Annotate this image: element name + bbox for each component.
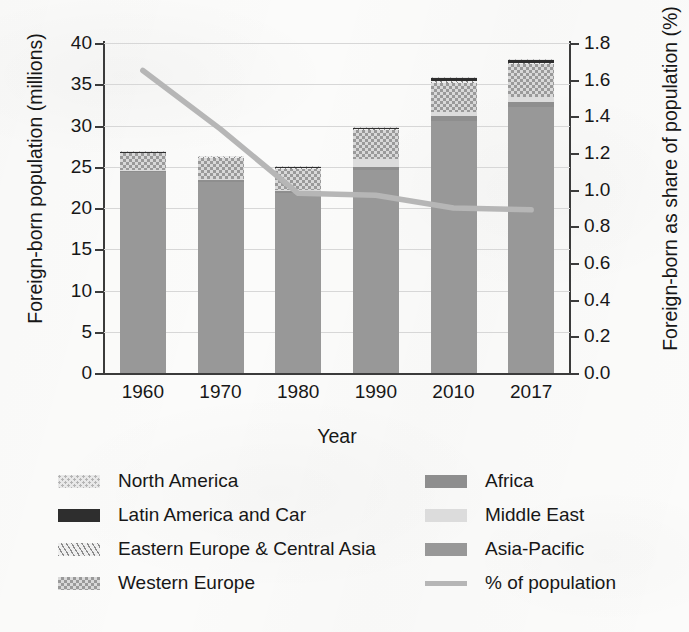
- right-tick-mark: [570, 43, 579, 45]
- left-tick-label: 15: [71, 239, 92, 258]
- checkerboard-swatch-icon: [58, 577, 100, 590]
- x-tick-label: 1970: [176, 381, 266, 403]
- legend-label-africa: Africa: [485, 470, 534, 492]
- right-axis-title: Foreign-born as share of population (%): [659, 0, 682, 394]
- left-tick-mark: [95, 208, 104, 210]
- right-tick-label: 1.4: [584, 106, 610, 125]
- left-tick-mark: [95, 332, 104, 334]
- legend-label-middle-east: Middle East: [485, 504, 584, 526]
- left-tick-label: 25: [71, 157, 92, 176]
- legend-item-western-europe: Western Europe: [58, 568, 388, 598]
- right-tick-mark: [570, 300, 579, 302]
- left-tick-mark: [95, 43, 104, 45]
- right-tick-label: 1.8: [584, 33, 610, 52]
- right-tick-mark: [570, 263, 579, 265]
- left-tick-mark: [95, 291, 104, 293]
- right-tick-label: 0.8: [584, 216, 610, 235]
- legend-item-north-america: North America: [58, 466, 388, 496]
- legend-item-africa: Africa: [425, 466, 689, 496]
- chart-figure: 4035302520151050 1.81.61.41.21.00.80.60.…: [0, 0, 689, 632]
- right-tick-mark: [570, 373, 579, 375]
- legend-label-latin-america: Latin America and Car: [118, 504, 306, 526]
- solid-medium-gray-swatch-icon: [425, 543, 467, 556]
- right-tick-mark: [570, 116, 579, 118]
- x-tick-label: 1960: [98, 381, 188, 403]
- legend-label-percent-of-population: % of population: [485, 572, 616, 594]
- legend-label-north-america: North America: [118, 470, 238, 492]
- legend-item-eastern-europe: Eastern Europe & Central Asia: [58, 534, 388, 564]
- legend-label-asia-pacific: Asia-Pacific: [485, 538, 584, 560]
- right-tick-label: 1.6: [584, 70, 610, 89]
- chart-legend: North America Latin America and Car East…: [30, 464, 670, 614]
- right-tick-mark: [570, 336, 579, 338]
- x-tick-label: 2017: [486, 381, 576, 403]
- right-tick-mark: [570, 190, 579, 192]
- solid-light-gray-swatch-icon: [425, 509, 467, 522]
- diagonal-hatch-swatch-icon: [58, 543, 100, 556]
- right-tick-label: 0.4: [584, 290, 610, 309]
- legend-item-percent-of-population: % of population: [425, 568, 689, 598]
- legend-label-western-europe: Western Europe: [118, 572, 255, 594]
- left-tick-label: 35: [71, 74, 92, 93]
- solid-gray-swatch-icon: [425, 475, 467, 488]
- dotted-swatch-icon: [58, 475, 100, 488]
- right-tick-mark: [570, 226, 579, 228]
- legend-item-latin-america: Latin America and Car: [58, 500, 388, 530]
- legend-label-eastern-europe: Eastern Europe & Central Asia: [118, 538, 376, 560]
- left-axis-title: Foreign-born population (millions): [24, 0, 47, 374]
- right-tick-label: 0.0: [584, 363, 610, 382]
- right-tick-mark: [570, 80, 579, 82]
- left-tick-label: 5: [81, 322, 92, 341]
- left-tick-label: 20: [71, 198, 92, 217]
- bottom-axis-spine: [103, 373, 571, 375]
- solid-dark-swatch-icon: [58, 509, 100, 522]
- left-tick-label: 30: [71, 116, 92, 135]
- x-tick-label: 1990: [331, 381, 421, 403]
- left-tick-mark: [95, 249, 104, 251]
- right-tick-label: 1.0: [584, 180, 610, 199]
- left-tick-mark: [95, 373, 104, 375]
- x-tick-label: 2010: [409, 381, 499, 403]
- plot-area: [104, 43, 570, 373]
- x-axis-title: Year: [104, 425, 570, 448]
- right-tick-mark: [570, 153, 579, 155]
- right-tick-label: 0.2: [584, 326, 610, 345]
- right-tick-label: 1.2: [584, 143, 610, 162]
- legend-item-asia-pacific: Asia-Pacific: [425, 534, 689, 564]
- left-tick-label: 0: [81, 363, 92, 382]
- left-tick-label: 40: [71, 33, 92, 52]
- percent-of-population-line: [104, 43, 570, 373]
- left-tick-label: 10: [71, 281, 92, 300]
- left-tick-mark: [95, 126, 104, 128]
- legend-item-middle-east: Middle East: [425, 500, 689, 530]
- left-tick-mark: [95, 84, 104, 86]
- left-tick-mark: [95, 167, 104, 169]
- right-tick-label: 0.6: [584, 253, 610, 272]
- x-tick-label: 1980: [253, 381, 343, 403]
- line-swatch-icon: [425, 581, 467, 586]
